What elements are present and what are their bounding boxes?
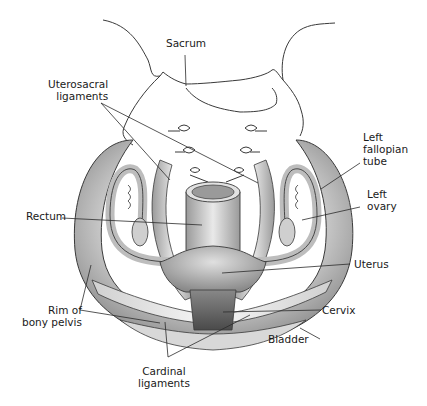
cervix <box>190 290 236 330</box>
label-rim-of-bony-pelvis: Rim of bony pelvis <box>22 304 82 328</box>
label-uterosacral-ligaments: Uterosacral ligaments <box>48 78 108 102</box>
rectum <box>186 182 240 256</box>
label-bladder: Bladder <box>268 333 309 345</box>
label-sacrum: Sacrum <box>166 37 206 49</box>
label-left-ovary: Left ovary <box>367 188 397 212</box>
sacrum-bone <box>103 20 335 182</box>
label-rectum: Rectum <box>26 210 66 222</box>
label-cervix: Cervix <box>322 304 355 316</box>
pelvic-anatomy-diagram: Sacrum Uterosacral ligaments Left fallop… <box>0 0 427 406</box>
anatomy-illustration <box>0 0 427 406</box>
label-left-fallopian-tube: Left fallopian tube <box>363 131 408 167</box>
label-cardinal-ligaments: Cardinal ligaments <box>138 365 190 389</box>
label-uterus: Uterus <box>354 258 389 270</box>
uterus <box>160 246 266 292</box>
